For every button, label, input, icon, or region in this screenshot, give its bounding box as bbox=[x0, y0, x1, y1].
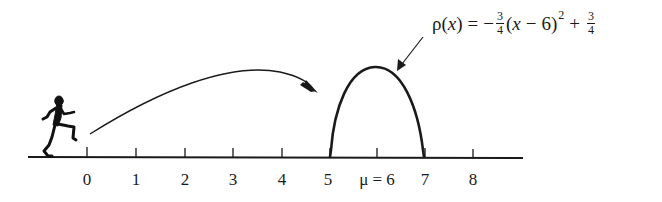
equation-plus: + bbox=[569, 14, 580, 33]
constant-denominator: 4 bbox=[587, 23, 595, 37]
constant-numerator: 3 bbox=[587, 10, 595, 23]
equation-lhs-variable: x bbox=[448, 14, 456, 33]
tick-label-mu-6: μ = 6 bbox=[359, 171, 395, 188]
equation-minus: − bbox=[483, 14, 494, 33]
parabola-curve bbox=[330, 67, 424, 157]
tick-label-3: 3 bbox=[229, 171, 238, 188]
coefficient-denominator: 4 bbox=[496, 23, 504, 37]
tick-label-1: 1 bbox=[132, 171, 141, 188]
equation-variable: x bbox=[512, 14, 520, 33]
jump-arc bbox=[90, 70, 314, 134]
equation-exponent: 2 bbox=[558, 9, 564, 21]
equation-center: 6 bbox=[542, 14, 552, 33]
equation-equals: = bbox=[468, 14, 479, 33]
equation-coefficient-fraction: 3 4 bbox=[496, 10, 504, 36]
equation-lhs: ρ( bbox=[432, 14, 448, 33]
number-line-axis bbox=[28, 157, 523, 158]
tick-label-7: 7 bbox=[421, 171, 430, 188]
tick-label-8: 8 bbox=[469, 171, 478, 188]
equation-pointer-line bbox=[402, 37, 423, 64]
equation-lhs-close: ) bbox=[456, 14, 462, 33]
density-equation: ρ( x ) = − 3 4 ( x − 6 ) 2 + 3 4 bbox=[432, 10, 597, 36]
tick-label-0: 0 bbox=[83, 171, 92, 188]
equation-minus-2: − bbox=[526, 14, 537, 33]
coefficient-numerator: 3 bbox=[496, 10, 504, 23]
tick-label-2: 2 bbox=[181, 171, 190, 188]
tick-label-4: 4 bbox=[278, 171, 287, 188]
equation-constant-fraction: 3 4 bbox=[587, 10, 595, 36]
equation-paren-close: ) bbox=[551, 14, 557, 33]
runner-icon bbox=[43, 96, 76, 156]
tick-label-5: 5 bbox=[324, 171, 333, 188]
